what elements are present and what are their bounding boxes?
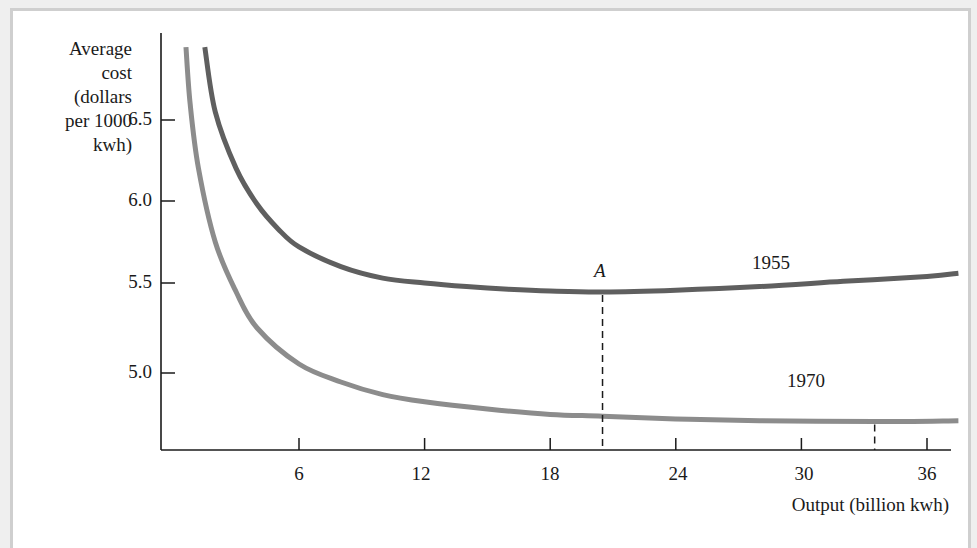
x-tick-marks	[299, 438, 927, 450]
x-axis-label: Output (billion kwh)	[792, 494, 949, 516]
y-tick-label: 6.0	[92, 189, 152, 211]
series-label-1955: 1955	[752, 252, 790, 274]
y-axis-label-line: Average	[22, 37, 132, 61]
x-tick-label: 12	[401, 463, 441, 485]
y-tick-marks	[161, 120, 175, 373]
y-tick-label: 5.5	[92, 271, 152, 293]
x-tick-label: 18	[530, 463, 570, 485]
curve-1955	[205, 47, 959, 292]
x-tick-label: 36	[907, 463, 947, 485]
y-axis-label-line: kwh)	[22, 133, 132, 157]
y-tick-label: 6.5	[92, 108, 152, 130]
x-tick-label: 24	[658, 463, 698, 485]
series-label-1970: 1970	[787, 370, 825, 392]
y-tick-label: 5.0	[92, 361, 152, 383]
y-axis-label: Average cost (dollars per 1000 kwh)	[22, 37, 132, 157]
y-axis-label-line: (dollars	[22, 85, 132, 109]
x-tick-label: 30	[784, 463, 824, 485]
point-a-label: A	[594, 260, 606, 282]
x-tick-label: 6	[279, 463, 319, 485]
y-axis-label-line: cost	[22, 61, 132, 85]
curve-1970	[186, 47, 958, 422]
